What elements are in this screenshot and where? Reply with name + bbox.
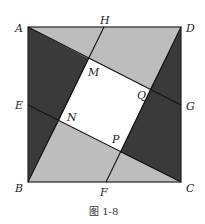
label-E: E	[14, 99, 23, 112]
label-Q: Q	[137, 89, 146, 102]
label-M: M	[87, 66, 100, 79]
label-F: F	[99, 186, 108, 199]
geometry-figure: A H D M Q G E N P B F C 图 1-8	[0, 0, 205, 224]
label-N: N	[66, 111, 77, 124]
label-B: B	[14, 182, 23, 195]
label-C: C	[186, 182, 195, 195]
label-D: D	[185, 22, 195, 35]
label-A: A	[14, 22, 23, 35]
label-G: G	[186, 100, 195, 113]
label-H: H	[99, 14, 110, 27]
figure-caption: 图 1-8	[89, 206, 118, 217]
label-P: P	[111, 133, 120, 146]
